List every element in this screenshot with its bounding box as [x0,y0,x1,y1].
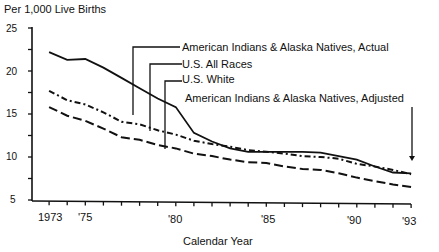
legend-white: U.S. White [182,73,235,85]
arrow-adjusted-icon [409,156,415,161]
infant-mortality-chart: Per 1,000 Live Births 25 20 15 10 5 1973… [0,0,439,252]
legend-actual: American Indians & Alaska Natives, Actua… [182,41,389,53]
y-tick-label-10: 10 [6,151,18,162]
y-tick-label-20: 20 [6,66,18,77]
leader-white [165,81,182,149]
legend-adjusted: American Indians & Alaska Natives, Adjus… [185,92,404,104]
x-tick-label-85: '85 [261,213,275,225]
x-axis-title: Calendar Year [183,235,253,247]
x-tick-label-90: '90 [347,214,361,226]
y-tick-label-15: 15 [6,108,18,119]
y-axis-title: Per 1,000 Live Births [4,3,107,15]
y-tick-label-5: 5 [10,194,16,205]
x-tick-label-93: '93 [402,215,416,227]
x-tick-label-80: '80 [168,213,182,225]
legend-all-races: U.S. All Races [182,58,253,70]
x-axis [32,201,411,204]
series-line-2 [49,107,411,187]
x-tick-label-1973: 1973 [38,211,62,223]
y-tick-label-25: 25 [6,23,18,34]
x-tick-label-75: '75 [78,211,92,223]
